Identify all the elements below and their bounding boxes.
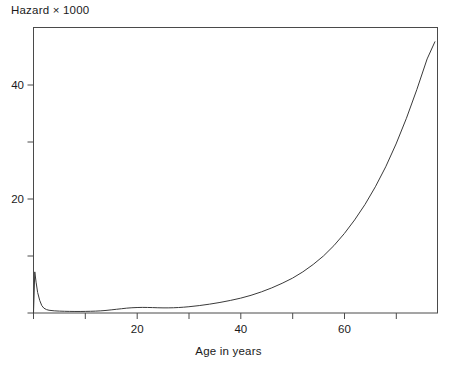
y-axis-ticks <box>28 85 34 313</box>
x-axis-ticks <box>34 313 397 319</box>
x-tick-label-60: 60 <box>338 323 351 335</box>
x-axis-label: Age in years <box>0 345 457 357</box>
axes-box <box>34 28 438 314</box>
x-tick-label-40: 40 <box>234 323 247 335</box>
y-tick-label-20: 20 <box>11 193 24 205</box>
hazard-curve <box>34 42 435 313</box>
y-tick-label-40: 40 <box>11 79 24 91</box>
hazard-chart: Hazard × 1000 40 20 20 40 60 Age <box>0 0 457 371</box>
plot-frame <box>34 28 438 314</box>
x-tick-label-20: 20 <box>131 323 144 335</box>
chart-plot-area: 40 20 20 40 60 <box>0 0 457 371</box>
